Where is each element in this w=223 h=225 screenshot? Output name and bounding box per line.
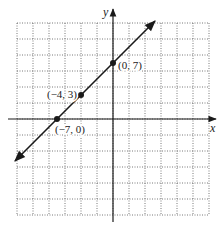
coordinate-plane: x y (0, 7)(−4, 3)(−7, 0) [0, 0, 223, 225]
point-label: (0, 7) [118, 59, 142, 72]
line-series [15, 21, 155, 161]
point-label: (−4, 3) [47, 88, 77, 101]
line-y-equals-x-plus-7 [15, 21, 155, 161]
x-axis-label: x [209, 121, 216, 135]
points: (0, 7)(−4, 3)(−7, 0) [47, 59, 142, 136]
point-label: (−7, 0) [55, 123, 85, 136]
data-point [54, 116, 60, 122]
data-point [110, 60, 116, 66]
data-point [78, 92, 84, 98]
axes: x y [8, 5, 216, 222]
y-axis-label: y [102, 5, 109, 19]
